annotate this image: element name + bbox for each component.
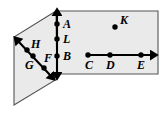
point-label-c: C — [85, 58, 94, 72]
point-dot-f — [41, 65, 46, 70]
point-dot-d — [107, 52, 112, 57]
point-label-f: F — [43, 51, 52, 65]
point-dot-b — [54, 53, 59, 58]
point-label-a: A — [62, 17, 71, 31]
geometry-figure: A L B H G F K C D E — [0, 0, 168, 118]
point-label-e: E — [136, 58, 145, 72]
point-label-d: D — [105, 58, 115, 72]
point-label-l: L — [62, 32, 70, 46]
point-label-b: B — [62, 49, 71, 63]
point-dot-l — [54, 36, 59, 41]
point-dot-h — [24, 47, 29, 52]
point-label-k: K — [119, 13, 129, 27]
point-dot-k — [112, 24, 117, 29]
point-dot-a — [54, 21, 59, 26]
point-dot-c — [85, 52, 90, 57]
geometry-canvas: A L B H G F K C D E — [0, 0, 168, 118]
point-dot-e — [138, 52, 143, 57]
point-label-g: G — [25, 58, 34, 72]
point-label-h: H — [30, 37, 41, 51]
